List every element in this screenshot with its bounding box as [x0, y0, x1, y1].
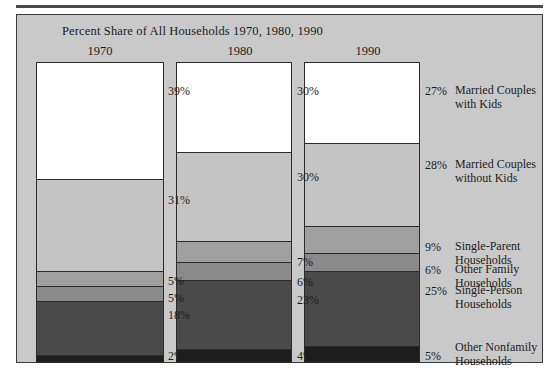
stacked-bar-1970[interactable] [36, 62, 164, 363]
legend-item-other-nonfamily: Other Nonfamily Households [455, 341, 537, 368]
value-label-1980-married-without-kids: 30% [297, 170, 319, 185]
bar-segment[interactable] [177, 63, 291, 153]
top-divider-rule [16, 5, 543, 8]
bar-segment[interactable] [305, 254, 419, 272]
bar-segment[interactable] [305, 272, 419, 347]
value-label-1990-single-parent: 9% [425, 240, 441, 255]
bar-segment[interactable] [177, 242, 291, 263]
value-label-1990-married-with-kids: 27% [425, 84, 447, 99]
value-label-1970-married-with-kids: 39% [168, 84, 190, 99]
bar-segment[interactable] [37, 272, 163, 287]
bar-segment[interactable] [305, 227, 419, 254]
value-label-1990-other-nonfamily: 5% [425, 349, 441, 364]
value-label-1980-single-parent: 7% [297, 255, 313, 270]
bar-segment[interactable] [37, 287, 163, 302]
bar-segment[interactable] [177, 350, 291, 362]
value-label-1980-married-with-kids: 30% [297, 84, 319, 99]
bar-segment[interactable] [305, 347, 419, 362]
bar-segment[interactable] [37, 302, 163, 356]
axis-label-1980: 1980 [176, 44, 304, 59]
value-label-1970-single-parent: 5% [168, 274, 184, 289]
value-label-1970-single-person: 18% [168, 308, 190, 323]
value-label-1970-other-family: 5% [168, 291, 184, 306]
axis-label-1990: 1990 [304, 44, 432, 59]
value-label-1990-single-person: 25% [425, 284, 447, 299]
value-label-1990-married-without-kids: 28% [425, 158, 447, 173]
bar-segment[interactable] [305, 63, 419, 144]
stacked-bar-1990[interactable] [304, 62, 420, 363]
stacked-bar-1980[interactable] [176, 62, 292, 363]
bar-segment[interactable] [177, 153, 291, 243]
bar-segment[interactable] [37, 63, 163, 180]
value-label-1980-other-family: 6% [297, 275, 313, 290]
legend-item-single-person: Single-Person Households [455, 284, 560, 311]
legend-item-married-without-kids: Married Couples without Kids [455, 158, 536, 185]
bar-segment[interactable] [37, 356, 163, 362]
bar-segment[interactable] [305, 144, 419, 228]
value-label-1980-other-nonfamily: 4% [297, 349, 313, 364]
bar-segment[interactable] [37, 180, 163, 273]
axis-label-1970: 1970 [36, 44, 164, 59]
bar-segment[interactable] [177, 263, 291, 281]
bar-segment[interactable] [177, 281, 291, 350]
chart-title: Percent Share of All Households 1970, 19… [62, 24, 323, 39]
legend-item-married-with-kids: Married Couples with Kids [455, 84, 536, 111]
value-label-1980-single-person: 23% [297, 293, 319, 308]
value-label-1970-married-without-kids: 31% [168, 193, 190, 208]
value-label-1970-other-nonfamily: 2% [168, 349, 184, 364]
value-label-1990-other-family: 6% [425, 263, 441, 278]
